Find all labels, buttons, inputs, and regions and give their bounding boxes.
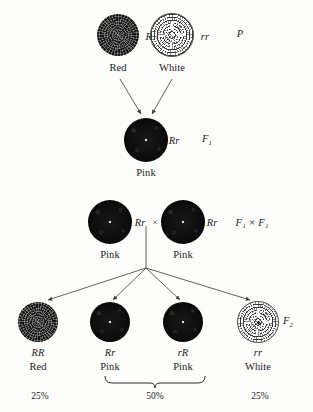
generation-tag-f1-cross-f1: F₁ × F₁ xyxy=(235,217,268,228)
phenotype-p-white: White xyxy=(159,62,185,73)
phenotype-f2-white: White xyxy=(245,361,271,372)
generation-tag-f1: F1 xyxy=(202,133,212,147)
genotype-f1cross-left: Rr xyxy=(135,217,146,228)
arrow-f2-rr-het2 xyxy=(146,268,180,300)
arrow-red-to-f1 xyxy=(120,79,141,114)
flower-f1cross-left-pink xyxy=(88,200,132,244)
cross-symbol: × xyxy=(152,217,157,227)
arrow-f2-rr-het xyxy=(113,268,146,300)
flower-f2-rr-pink xyxy=(90,302,130,342)
phenotype-p-red: Red xyxy=(109,62,126,73)
diagram-connectors xyxy=(0,0,313,412)
percent-f2-pink: 50% xyxy=(146,391,164,401)
genotype-f2-rr-white: rr xyxy=(254,347,262,358)
phenotype-f2-pink-right: Pink xyxy=(173,361,193,372)
genotype-f2-rr-het-2: rR xyxy=(178,347,189,358)
percent-f2-white: 25% xyxy=(251,391,269,401)
flower-f1cross-right-pink xyxy=(161,200,205,244)
arrow-f2-rr-white xyxy=(146,268,250,300)
phenotype-f2-pink-left: Pink xyxy=(100,361,120,372)
arrow-f2-rr xyxy=(48,268,146,300)
genotype-f1cross-right: Rr xyxy=(207,217,218,228)
genotype-p-rr-white: rr xyxy=(201,31,209,42)
arrow-white-to-f1 xyxy=(152,79,172,114)
genetics-diagram: RR Red rr White P Rr Pink F1 Rr Pink × R… xyxy=(0,0,313,412)
genotype-f2-rr-het: Rr xyxy=(105,347,116,358)
flower-f2-rr-red xyxy=(18,302,58,342)
phenotype-f1cross-left-pink: Pink xyxy=(100,249,120,260)
flower-f2-rr-pink-2 xyxy=(163,302,203,342)
brace-pink-group xyxy=(105,376,205,388)
flower-f1-rr-pink xyxy=(124,118,168,162)
flower-p-rr-red xyxy=(97,14,139,56)
generation-tag-f2-sub: 2 xyxy=(289,321,293,329)
generation-tag-f2: F2 xyxy=(283,315,293,329)
phenotype-f1cross-right-pink: Pink xyxy=(173,249,193,260)
genotype-f2-rr: RR xyxy=(31,347,44,358)
genotype-f1-rr: Rr xyxy=(169,135,180,146)
generation-tag-f1-sub: 1 xyxy=(208,139,212,147)
phenotype-f1-pink: Pink xyxy=(136,167,156,178)
flower-f2-rr-white xyxy=(237,301,279,343)
generation-tag-p: P xyxy=(237,28,244,39)
phenotype-f2-red: Red xyxy=(29,361,46,372)
flower-p-rr-white xyxy=(150,13,194,57)
percent-f2-red: 25% xyxy=(31,391,49,401)
